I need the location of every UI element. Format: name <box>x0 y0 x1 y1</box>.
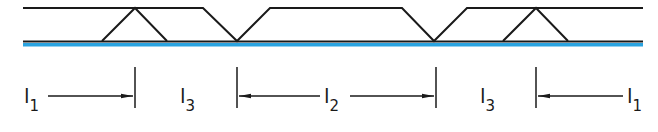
overlap-seam-left <box>102 8 167 41</box>
dimension-label-l1-left: l1 <box>24 84 39 115</box>
dimension-label-l3-right: l3 <box>480 84 495 115</box>
dimension-label-l3-left: l3 <box>180 84 195 115</box>
dimension-label-l2: l2 <box>324 84 339 115</box>
seam-diagram: l1 l3 l2 l3 l1 <box>0 0 658 132</box>
top-sheet-profile <box>23 8 643 41</box>
substrate-band <box>23 43 643 47</box>
overlap-seam-right <box>503 8 568 41</box>
dimension-label-l1-right: l1 <box>627 84 642 115</box>
